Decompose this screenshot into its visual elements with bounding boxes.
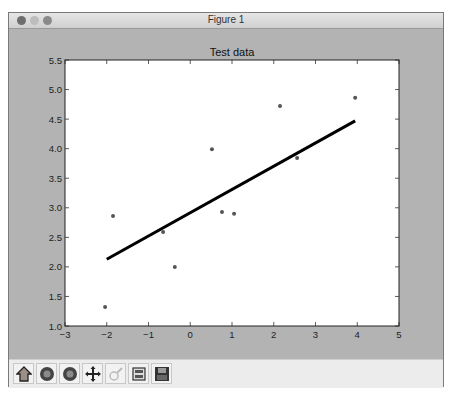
data-point — [295, 156, 299, 160]
data-point — [232, 212, 236, 216]
data-point — [111, 214, 115, 218]
save-button[interactable] — [151, 363, 172, 384]
x-tick-label: 4 — [355, 329, 360, 340]
x-tick-label: 0 — [188, 329, 193, 340]
y-tick-label: 5.5 — [49, 55, 62, 66]
data-point — [278, 104, 282, 108]
back-button[interactable] — [36, 363, 57, 384]
pan-icon — [85, 366, 101, 382]
x-tick-label: 2 — [271, 329, 276, 340]
y-tick-label: 4.5 — [49, 114, 62, 125]
data-point — [210, 147, 214, 151]
y-tick-label: 3.5 — [49, 173, 62, 184]
data-point — [173, 265, 177, 269]
zoom-button[interactable] — [105, 363, 126, 384]
subplots-icon — [131, 366, 147, 382]
back-arrow-icon — [39, 366, 55, 382]
window-title: Figure 1 — [9, 14, 443, 25]
save-icon — [154, 366, 170, 382]
y-tick-label: 2.5 — [49, 232, 62, 243]
figure-window: Figure 1 Test data−3−2−10123451.01.52.02… — [8, 12, 444, 387]
forward-arrow-icon — [62, 366, 78, 382]
chart: Test data−3−2−10123451.01.52.02.53.03.54… — [9, 29, 445, 359]
forward-button[interactable] — [59, 363, 80, 384]
y-tick-label: 2.0 — [49, 261, 62, 272]
configure-subplots-button[interactable] — [128, 363, 149, 384]
pan-button[interactable] — [82, 363, 103, 384]
x-tick-label: 3 — [313, 329, 318, 340]
x-tick-label: 5 — [396, 329, 401, 340]
home-icon — [16, 366, 32, 382]
title-bar[interactable]: Figure 1 — [9, 13, 443, 29]
data-point — [103, 305, 107, 309]
y-tick-label: 1.0 — [49, 321, 62, 332]
data-point — [220, 210, 224, 214]
y-tick-label: 3.0 — [49, 202, 62, 213]
x-tick-label: 1 — [229, 329, 234, 340]
navigation-toolbar — [9, 359, 443, 388]
plot-area — [65, 60, 399, 326]
x-tick-label: −2 — [101, 329, 112, 340]
data-point — [353, 96, 357, 100]
chart-title: Test data — [210, 46, 256, 58]
y-tick-label: 5.0 — [49, 84, 62, 95]
y-tick-label: 1.5 — [49, 291, 62, 302]
y-tick-label: 4.0 — [49, 143, 62, 154]
data-point — [161, 230, 165, 234]
figure-canvas[interactable]: Test data−3−2−10123451.01.52.02.53.03.54… — [9, 29, 443, 359]
zoom-icon — [108, 366, 124, 382]
home-button[interactable] — [13, 363, 34, 384]
x-tick-label: −1 — [143, 329, 154, 340]
